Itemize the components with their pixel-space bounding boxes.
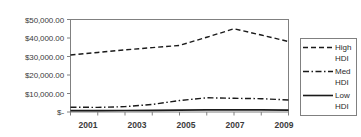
legend-label-high-hdi-line2: HDI (335, 54, 349, 63)
series-line-med-hdi (71, 98, 289, 108)
line-chart: $50,000.00 $40,000.00 $30,000.00 $20,000… (0, 0, 361, 137)
legend-swatch-high-hdi (303, 44, 333, 51)
legend-item-low-hdi[interactable]: Low (303, 91, 350, 100)
legend-label-high-hdi: High (335, 43, 351, 52)
legend-label-low-hdi-line2: HDI (335, 102, 349, 111)
data-series-group (71, 29, 289, 111)
legend: High HDI Med HDI Low HDI (300, 38, 357, 116)
x-tick-marks (71, 112, 289, 116)
series-line-low-hdi (71, 110, 289, 111)
legend-swatch-med-hdi (303, 68, 333, 75)
legend-label-med-hdi-line2: HDI (335, 78, 349, 87)
legend-item-med-hdi[interactable]: Med (303, 67, 351, 76)
legend-item-high-hdi[interactable]: High (303, 43, 351, 52)
y-tick-marks (67, 20, 71, 113)
series-line-high-hdi (71, 29, 289, 55)
legend-swatch-low-hdi (303, 92, 333, 99)
legend-label-med-hdi: Med (335, 67, 351, 76)
legend-label-low-hdi: Low (335, 91, 350, 100)
